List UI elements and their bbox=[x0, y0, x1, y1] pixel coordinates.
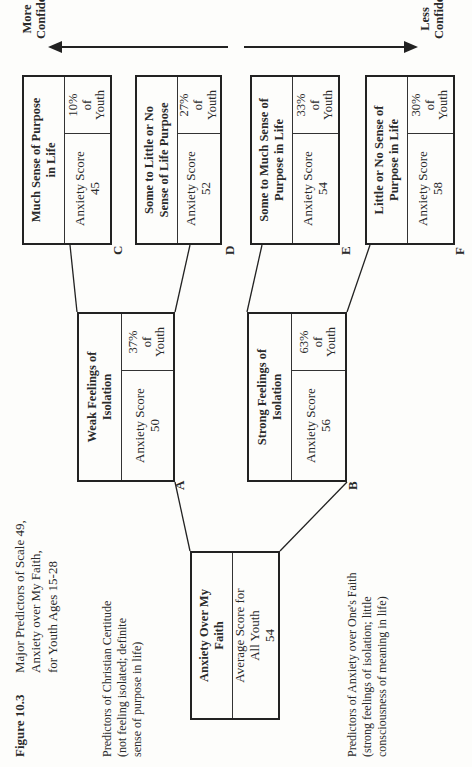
node-letter-d: D bbox=[222, 246, 238, 255]
node-percent: 27%ofYouth bbox=[178, 77, 220, 134]
node-score: Anxiety Score52 bbox=[178, 134, 220, 243]
node-percent: 33%ofYouth bbox=[293, 77, 338, 134]
node-d-some-to-no-purpose: Some to Little or NoSense of Life Purpos… bbox=[135, 75, 222, 245]
node-letter-a: A bbox=[172, 481, 188, 490]
figure-title-line: Anxiety over My Faith, bbox=[28, 520, 44, 673]
anxiety-legend: Predictors of Anxiety over One's Faith (… bbox=[345, 507, 390, 757]
diagram-canvas: MoreConfident LessConfident Figure 10.3 … bbox=[0, 0, 472, 767]
arrow-head-right-icon bbox=[404, 41, 418, 53]
node-title: Anxiety Over MyFaith bbox=[192, 553, 233, 718]
less-confident-label: LessConfident bbox=[418, 0, 447, 39]
node-score: Anxiety Score54 bbox=[293, 134, 338, 243]
certitude-legend: Predictors of Christian Certitude (not f… bbox=[100, 537, 145, 757]
node-c-much-purpose: Much Sense of Purposein Life Anxiety Sco… bbox=[22, 75, 112, 245]
node-e-some-to-much-purpose: Some to Much Sense ofPurpose in Life Anx… bbox=[250, 75, 340, 245]
node-f-little-no-purpose: Little or No Sense ofPurpose in Life Anx… bbox=[365, 75, 455, 245]
figure-caption: Figure 10.3 Major Predictors of Scale 49… bbox=[12, 457, 61, 757]
node-title: Some to Little or NoSense of Life Purpos… bbox=[137, 77, 178, 243]
node-score: Average Score for All Youth 54 bbox=[233, 553, 278, 718]
arrow-head-left-icon bbox=[48, 41, 62, 53]
node-title: Weak Feelings ofIsolation bbox=[79, 314, 122, 480]
node-title: Some to Much Sense ofPurpose in Life bbox=[252, 77, 293, 243]
node-title: Strong Feelings ofIsolation bbox=[249, 314, 292, 480]
node-letter-f: F bbox=[452, 247, 468, 255]
node-percent: 63%ofYouth bbox=[292, 314, 345, 371]
more-confident-label: MoreConfident bbox=[20, 0, 49, 39]
node-letter-c: C bbox=[110, 246, 126, 255]
node-score: Anxiety Score58 bbox=[408, 134, 453, 243]
figure-number: Figure 10.3 bbox=[12, 673, 61, 757]
node-title: Much Sense of Purposein Life bbox=[24, 77, 65, 243]
node-title: Little or No Sense ofPurpose in Life bbox=[367, 77, 408, 243]
node-score: Anxiety Score56 bbox=[292, 371, 345, 480]
node-b-strong-isolation: Strong Feelings ofIsolation Anxiety Scor… bbox=[247, 312, 347, 482]
figure-title-line: for Youth Ages 15-28 bbox=[45, 520, 61, 673]
node-letter-e: E bbox=[338, 246, 354, 255]
node-percent: 37%ofYouth bbox=[122, 314, 173, 371]
root-node-anxiety-over-faith: Anxiety Over MyFaith Average Score for A… bbox=[190, 551, 280, 720]
node-score: Anxiety Score45 bbox=[65, 134, 110, 243]
node-percent: 10%ofYouth bbox=[65, 77, 110, 134]
node-letter-b: B bbox=[345, 481, 361, 490]
node-a-weak-isolation: Weak Feelings ofIsolation Anxiety Score5… bbox=[77, 312, 175, 482]
node-percent: 30%ofYouth bbox=[408, 77, 453, 134]
node-score: Anxiety Score50 bbox=[122, 371, 173, 480]
figure-title-line: Major Predictors of Scale 49, bbox=[12, 520, 28, 673]
